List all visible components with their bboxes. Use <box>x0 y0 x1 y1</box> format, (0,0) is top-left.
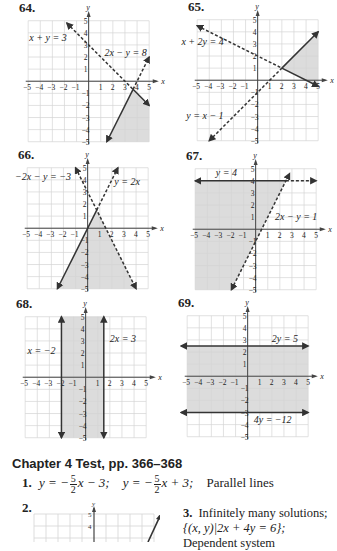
answer-1-eq1-prefix: y = − <box>39 475 69 490</box>
svg-text:4: 4 <box>132 379 136 388</box>
graph-65: xy−5−5−4−4−3−3−2−2−1−11122334455x + 2y =… <box>179 4 336 156</box>
svg-text:1: 1 <box>253 64 257 73</box>
svg-text:1: 1 <box>81 361 85 370</box>
svg-text:−5: −5 <box>241 432 249 441</box>
svg-text:2: 2 <box>251 201 255 210</box>
svg-text:−4: −4 <box>33 379 41 388</box>
svg-text:5: 5 <box>144 379 148 388</box>
answer-3-line2: {(x, y)|2x + 4y = 6}; <box>183 521 328 536</box>
svg-text:−5: −5 <box>22 230 30 239</box>
svg-text:−3: −3 <box>48 83 56 92</box>
svg-text:3: 3 <box>120 379 124 388</box>
svg-text:3: 3 <box>282 378 286 387</box>
svg-text:1: 1 <box>268 82 272 91</box>
svg-text:−2: −2 <box>81 248 89 257</box>
svg-text:2: 2 <box>83 200 87 209</box>
svg-text:−5: −5 <box>20 379 28 388</box>
svg-text:5: 5 <box>88 511 92 519</box>
svg-text:y: y <box>83 301 88 308</box>
svg-text:4: 4 <box>302 231 306 240</box>
svg-text:−1: −1 <box>79 385 87 394</box>
svg-text:4: 4 <box>243 324 247 333</box>
svg-text:−4: −4 <box>79 421 87 430</box>
equation-label: x = −2 <box>27 345 56 356</box>
svg-text:4: 4 <box>294 378 298 387</box>
svg-text:−2: −2 <box>82 101 90 110</box>
svg-text:x: x <box>158 373 163 382</box>
svg-text:1: 1 <box>99 83 103 92</box>
svg-text:4: 4 <box>81 325 85 334</box>
svg-text:x: x <box>328 225 333 234</box>
svg-text:5: 5 <box>81 312 85 321</box>
svg-text:5: 5 <box>253 15 257 24</box>
svg-text:−1: −1 <box>239 231 247 240</box>
svg-text:3: 3 <box>122 230 126 239</box>
svg-text:−1: −1 <box>241 384 249 393</box>
svg-text:−4: −4 <box>35 230 43 239</box>
svg-text:−3: −3 <box>207 378 215 387</box>
answer-3-line1: Infinitely many solutions; <box>198 506 327 520</box>
equation-label: 4y = −12 <box>254 414 292 425</box>
graph-67: xy−5−5−4−4−3−3−2−2−1−11122334455y = 42x … <box>177 153 334 305</box>
svg-text:3: 3 <box>251 189 255 198</box>
svg-text:−3: −3 <box>251 112 259 121</box>
svg-text:−5: −5 <box>249 285 257 294</box>
svg-text:1: 1 <box>83 212 87 221</box>
svg-text:3: 3 <box>253 40 257 49</box>
svg-text:−3: −3 <box>79 409 87 418</box>
svg-text:−1: −1 <box>69 379 77 388</box>
answer-1-conclusion: Parallel lines <box>206 475 274 490</box>
graph-69: xy−5−5−4−4−3−3−2−2−1−111223344552y = 54y… <box>169 300 326 452</box>
equation-label: x + 2y = 4 <box>181 36 224 47</box>
svg-text:3: 3 <box>243 336 247 345</box>
svg-text:4: 4 <box>88 523 92 531</box>
svg-text:5: 5 <box>147 83 151 92</box>
svg-text:−2: −2 <box>219 378 227 387</box>
svg-text:1: 1 <box>98 230 102 239</box>
answer-1: 1. y = −52x − 3; y = −52x + 3; Parallel … <box>22 474 274 495</box>
equation-label: 2x − y = 8 <box>105 47 147 58</box>
answer-2-graph-partial: y 5 4 <box>30 500 160 542</box>
svg-text:−5: −5 <box>192 82 200 91</box>
svg-text:−4: −4 <box>36 83 44 92</box>
answer-3-line3: Dependent system <box>183 536 328 551</box>
svg-text:−1: −1 <box>231 378 239 387</box>
svg-text:x: x <box>330 76 335 85</box>
answer-1-eq1-suffix: x − 3; <box>78 475 110 490</box>
equation-label: y = x − 1 <box>186 110 224 121</box>
svg-text:−1: −1 <box>251 88 259 97</box>
svg-text:x: x <box>161 77 166 86</box>
svg-text:−4: −4 <box>203 231 211 240</box>
svg-text:x: x <box>320 372 325 381</box>
svg-text:−1: −1 <box>249 237 257 246</box>
svg-text:−5: −5 <box>79 433 87 442</box>
svg-text:−5: −5 <box>81 284 89 293</box>
svg-text:5: 5 <box>306 378 310 387</box>
svg-text:−4: −4 <box>82 125 90 134</box>
svg-text:3: 3 <box>81 337 85 346</box>
svg-text:5: 5 <box>314 231 318 240</box>
svg-text:5: 5 <box>243 311 247 320</box>
svg-text:2: 2 <box>243 348 247 357</box>
answer-1-number: 1. <box>22 475 32 490</box>
svg-text:−5: −5 <box>190 231 198 240</box>
fraction-5-over-2: 52 <box>70 474 77 495</box>
svg-text:y: y <box>255 4 260 11</box>
svg-text:4: 4 <box>253 28 257 37</box>
svg-text:−4: −4 <box>195 378 203 387</box>
svg-text:−2: −2 <box>60 83 68 92</box>
svg-text:1: 1 <box>84 65 88 74</box>
svg-text:2: 2 <box>270 378 274 387</box>
svg-text:4: 4 <box>304 82 308 91</box>
solution-region <box>282 32 318 86</box>
svg-text:y: y <box>253 153 258 160</box>
svg-text:2: 2 <box>278 231 282 240</box>
svg-text:−4: −4 <box>249 273 257 282</box>
svg-text:−3: −3 <box>215 231 223 240</box>
svg-text:4: 4 <box>134 230 138 239</box>
svg-text:−5: −5 <box>182 378 190 387</box>
graph-66: xy−5−5−4−4−3−3−2−2−1−11122334455−2x − y … <box>9 152 166 304</box>
graph-64: xy−5−5−4−4−3−3−2−2−1−11122334455x + y = … <box>10 5 167 157</box>
svg-text:−3: −3 <box>45 379 53 388</box>
svg-text:5: 5 <box>83 163 87 172</box>
